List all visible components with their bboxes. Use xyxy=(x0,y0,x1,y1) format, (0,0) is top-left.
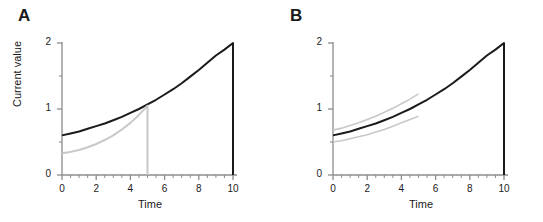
panel-b: B Time 0120246810 xyxy=(271,0,543,222)
x-tick-label: 4 xyxy=(121,183,139,194)
y-tick-label: 1 xyxy=(35,102,51,113)
x-tick-label: 6 xyxy=(427,183,445,194)
x-tick-label: 8 xyxy=(190,183,208,194)
series-reset-accumulation xyxy=(62,106,148,175)
x-tick-label: 0 xyxy=(324,183,342,194)
series-primary-accumulation xyxy=(333,43,504,175)
x-tick-label: 10 xyxy=(495,183,513,194)
x-tick-label: 2 xyxy=(358,183,376,194)
x-tick-label: 0 xyxy=(53,183,71,194)
x-tick-label: 8 xyxy=(461,183,479,194)
x-tick-label: 4 xyxy=(392,183,410,194)
y-tick-label: 2 xyxy=(35,36,51,47)
y-tick-label: 1 xyxy=(306,102,322,113)
x-tick-label: 6 xyxy=(156,183,174,194)
y-tick-label: 0 xyxy=(306,168,322,179)
series-lower-bound xyxy=(333,116,419,142)
x-tick-label: 2 xyxy=(87,183,105,194)
y-tick-label: 2 xyxy=(306,36,322,47)
panel-a: A Current value Time 0120246810 xyxy=(0,0,272,222)
x-tick-label: 10 xyxy=(224,183,242,194)
figure-container: A Current value Time 0120246810 B Time 0… xyxy=(0,0,543,222)
y-tick-label: 0 xyxy=(35,168,51,179)
